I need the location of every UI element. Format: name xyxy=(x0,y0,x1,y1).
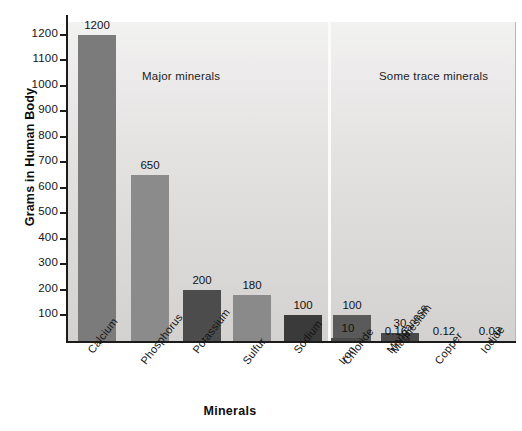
y-axis-tick xyxy=(60,161,67,163)
x-axis-title: Minerals xyxy=(0,404,460,418)
bar-sulfur xyxy=(233,295,271,341)
y-axis-tick xyxy=(60,289,67,291)
annotation-major-minerals: Major minerals xyxy=(142,70,220,82)
bar-value-label: 100 xyxy=(322,299,382,311)
y-axis-tick-label: 800 xyxy=(38,129,58,141)
y-axis-tick-label: 100 xyxy=(38,307,58,319)
bar-value-label: 650 xyxy=(120,159,180,171)
y-axis-tick xyxy=(60,59,67,61)
y-axis-tick xyxy=(60,238,67,240)
annotation-trace-minerals: Some trace minerals xyxy=(379,70,488,82)
bar-calcium xyxy=(78,35,116,341)
y-axis-tick xyxy=(60,110,67,112)
bar-phosphorus xyxy=(131,175,169,341)
mineral-bar-chart: 120011001000900800700600500400300200100 … xyxy=(0,0,522,431)
y-axis-tick-label: 900 xyxy=(38,103,58,115)
y-axis-title: Grams in Human Body xyxy=(23,47,37,267)
y-axis-line xyxy=(66,15,68,342)
y-axis-tick-label: 600 xyxy=(38,180,58,192)
y-axis-tick xyxy=(60,85,67,87)
y-axis-tick xyxy=(60,314,67,316)
y-axis-tick xyxy=(60,187,67,189)
y-axis-tick xyxy=(60,263,67,265)
y-axis-tick-label: 200 xyxy=(38,282,58,294)
bar-value-label: 0.03 xyxy=(460,325,520,337)
y-axis-tick xyxy=(60,136,67,138)
y-axis-tick xyxy=(60,34,67,36)
y-axis-tick-label: 1200 xyxy=(32,27,58,39)
y-axis-tick-label: 400 xyxy=(38,231,58,243)
bar-value-label: 180 xyxy=(222,279,282,291)
y-axis-tick xyxy=(60,212,67,214)
bar-value-label: 1200 xyxy=(67,19,127,31)
y-axis-tick-label: 500 xyxy=(38,205,58,217)
y-axis-tick-label: 700 xyxy=(38,154,58,166)
y-axis-tick-label: 300 xyxy=(38,256,58,268)
